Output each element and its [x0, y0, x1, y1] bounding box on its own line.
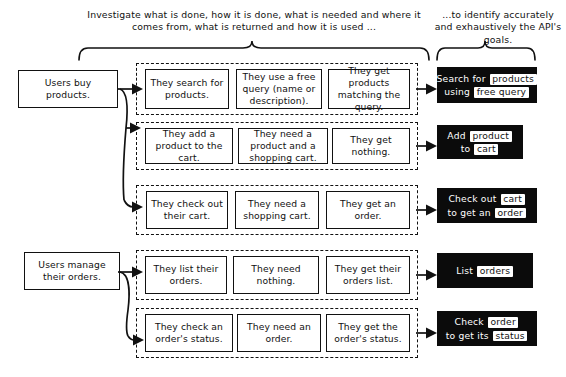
- caption-investigate: Investigate what is done, how it is done…: [78, 9, 430, 34]
- arrow-to-goal: [416, 139, 438, 153]
- step-label: They get an order.: [331, 198, 405, 222]
- step-label: They check an order's status.: [150, 321, 228, 345]
- step-label: They get their orders list.: [331, 263, 405, 287]
- step-box: They list their orders.: [145, 256, 227, 294]
- step-box: They check an order's status.: [145, 314, 233, 352]
- goal-highlight: order: [488, 317, 519, 328]
- brace-right: [434, 40, 538, 62]
- step-box: They need a shopping cart.: [235, 191, 319, 229]
- step-box: They search for products.: [145, 69, 229, 109]
- goal-text: using: [444, 86, 473, 97]
- goal-line: using free query: [437, 85, 538, 98]
- step-box: They add a product to the cart.: [145, 128, 233, 164]
- step-box: They need an order.: [237, 314, 321, 352]
- goal-text: to get an: [447, 207, 494, 218]
- goal-text: Add: [447, 130, 469, 141]
- step-label: They check out their cart.: [151, 198, 223, 222]
- goal-box-search: Search for products using free query: [437, 67, 537, 103]
- goal-highlight: free query: [474, 87, 529, 98]
- goal-highlight: order: [495, 208, 526, 219]
- goal-box-checkout: Check out cart to get an order: [437, 188, 537, 223]
- goal-highlight: status: [493, 331, 527, 342]
- arrow-to-goal: [416, 82, 438, 96]
- step-label: They get the order's status.: [331, 321, 405, 345]
- goal-box-list: List orders: [437, 253, 533, 288]
- step-label: They add a product to the cart.: [150, 128, 228, 164]
- goal-highlight: cart: [501, 194, 525, 205]
- goal-highlight: orders: [477, 266, 513, 277]
- goal-line: to get its status: [446, 329, 529, 342]
- step-label: They list their orders.: [150, 263, 222, 287]
- goal-line: Check order: [446, 315, 529, 328]
- goal-line: List orders: [456, 264, 513, 277]
- arrow-to-goal: [416, 326, 438, 340]
- step-label: They need a shopping cart.: [240, 198, 314, 222]
- step-label: They get products matching the query.: [333, 65, 405, 113]
- goal-line: to cart: [447, 142, 512, 155]
- step-box: They get the order's status.: [326, 314, 410, 352]
- step-label: They get nothing.: [337, 134, 405, 158]
- goal-highlight: product: [470, 131, 512, 142]
- step-label: They need a product and a shopping cart.: [243, 128, 323, 164]
- actor-label: Users buy products.: [23, 77, 113, 101]
- goal-text: to: [461, 143, 474, 154]
- goal-text: Check out: [448, 193, 499, 204]
- goal-line: to get an order: [447, 206, 526, 219]
- step-box: They get an order.: [326, 191, 410, 229]
- actor-box-users-buy-products: Users buy products.: [18, 70, 118, 108]
- goal-highlight: products: [490, 74, 537, 85]
- goal-box-add: Add product to cart: [437, 125, 523, 159]
- step-box: They check out their cart.: [146, 191, 228, 229]
- goal-text: Search for: [437, 73, 489, 84]
- goal-highlight: cart: [474, 144, 498, 155]
- step-box: They get their orders list.: [326, 256, 410, 294]
- step-box: They get products matching the query.: [328, 69, 410, 109]
- goal-box-status: Check order to get its status: [437, 311, 537, 346]
- step-box: They need nothing.: [233, 256, 319, 294]
- actor-label: Users manage their orders.: [29, 259, 115, 283]
- goal-line: Add product: [447, 129, 512, 142]
- brace-left: [76, 40, 432, 62]
- step-label: They search for products.: [150, 77, 224, 101]
- step-label: They need nothing.: [238, 263, 314, 287]
- arrow-to-goal: [416, 268, 438, 282]
- step-label: They need an order.: [242, 321, 316, 345]
- goal-text: Check: [455, 316, 487, 327]
- step-box: They use a free query (name or descripti…: [236, 69, 322, 109]
- goal-line: Search for products: [437, 72, 538, 85]
- actor-box-users-manage-orders: Users manage their orders.: [24, 252, 120, 290]
- goal-line: Check out cart: [447, 192, 526, 205]
- step-label: They use a free query (name or descripti…: [241, 71, 317, 107]
- arrow-to-goal: [416, 203, 438, 217]
- diagram-canvas: Investigate what is done, how it is done…: [0, 0, 566, 377]
- goal-text: to get its: [446, 330, 492, 341]
- goal-text: List: [456, 265, 476, 276]
- step-box: They need a product and a shopping cart.: [238, 128, 328, 164]
- step-box: They get nothing.: [332, 128, 410, 164]
